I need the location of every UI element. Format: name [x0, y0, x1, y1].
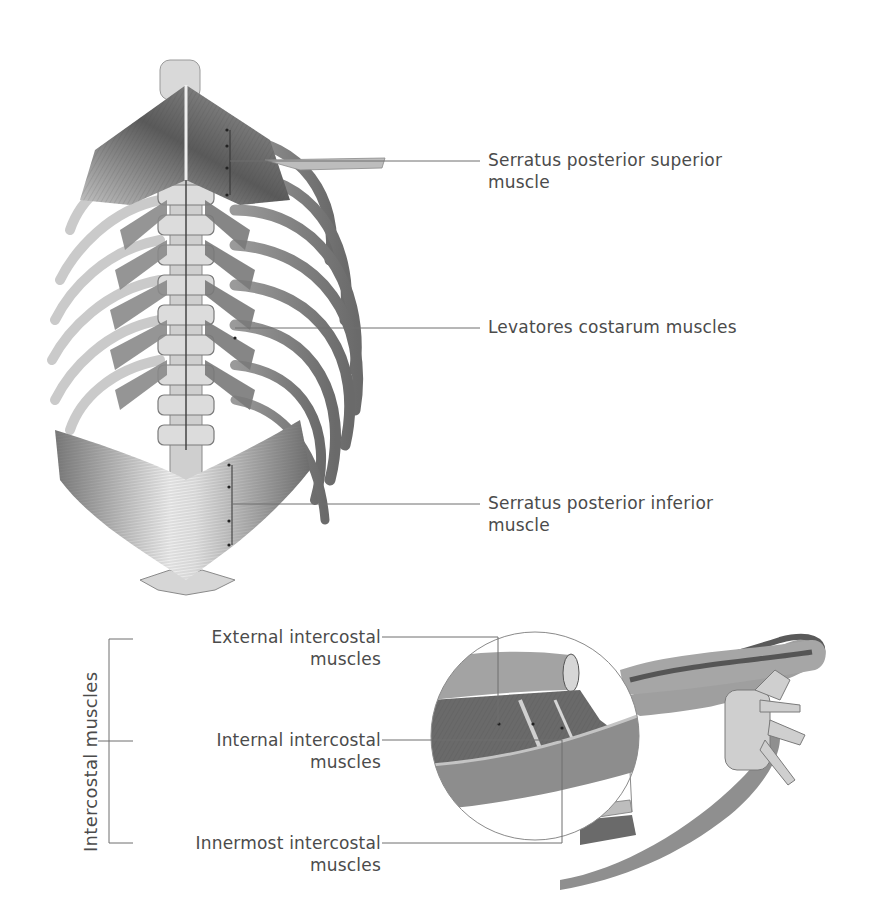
label-serratus-posterior-inferior: Serratus posterior inferior muscle: [488, 492, 713, 536]
label-levatores-costarum: Levatores costarum muscles: [488, 316, 737, 338]
label-serratus-posterior-superior: Serratus posterior superior muscle: [488, 149, 722, 193]
label-innermost-intercostal: Innermost intercostal muscles: [196, 832, 381, 876]
label-internal-intercostal: Internal intercostal muscles: [216, 729, 381, 773]
label-line-1: Internal intercostal: [216, 729, 381, 751]
serratus-posterior-superior: [80, 85, 385, 205]
label-line-1: Innermost intercostal: [196, 832, 381, 854]
label-line-2: muscle: [488, 514, 713, 536]
label-external-intercostal: External intercostal muscles: [211, 626, 381, 670]
intercostal-bracket: [98, 639, 133, 843]
label-line-1: Serratus posterior superior: [488, 149, 722, 171]
label-line-1: Serratus posterior inferior: [488, 492, 713, 514]
label-line-2: muscle: [488, 171, 722, 193]
label-line-2: muscles: [211, 648, 381, 670]
label-line-2: muscles: [216, 751, 381, 773]
label-line-1: External intercostal: [211, 626, 381, 648]
label-line-1: Levatores costarum muscles: [488, 316, 737, 338]
label-line-2: muscles: [196, 854, 381, 876]
intercostal-group-label: Intercostal muscles: [80, 672, 101, 852]
anatomy-illustration: [0, 0, 873, 912]
